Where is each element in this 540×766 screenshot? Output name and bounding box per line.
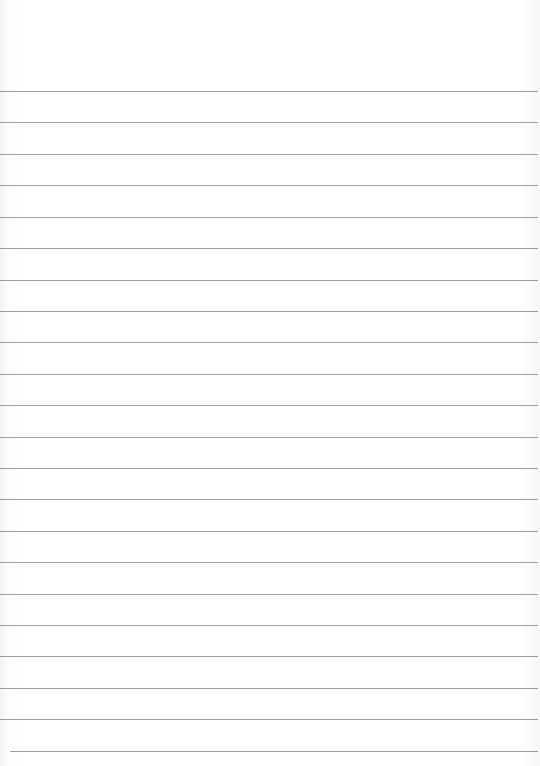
ruled-line (0, 499, 538, 500)
ruled-line (0, 91, 538, 92)
ruled-line (0, 248, 538, 249)
ruled-line (0, 217, 538, 218)
ruled-line (10, 751, 538, 752)
ruled-line (0, 468, 538, 469)
ruled-line (0, 185, 538, 186)
ruled-line (0, 719, 538, 720)
ruled-line (0, 311, 538, 312)
ruled-line (0, 374, 538, 375)
ruled-line (0, 280, 538, 281)
ruled-line (0, 625, 538, 626)
ruled-line (0, 656, 538, 657)
ruled-line (0, 154, 538, 155)
ruled-line (0, 342, 538, 343)
ruled-line (0, 531, 538, 532)
ruled-line (0, 437, 538, 438)
ruled-line (0, 122, 538, 123)
ruled-line (0, 688, 538, 689)
ruled-line (0, 594, 538, 595)
lined-paper-sheet (0, 0, 540, 766)
ruled-line (0, 405, 538, 406)
ruled-line (0, 562, 538, 563)
